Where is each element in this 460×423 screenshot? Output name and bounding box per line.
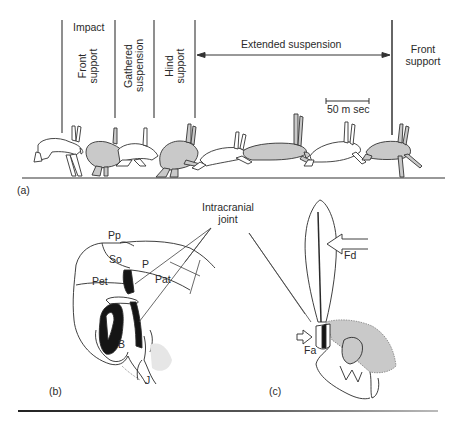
phase-label-line: support (400, 56, 446, 68)
bottom-rule (18, 410, 438, 412)
panel-label-c: (c) (269, 385, 281, 397)
hare-5 (192, 132, 252, 170)
phase-label-line: support (175, 40, 186, 92)
hare-7 (304, 122, 366, 166)
hare-3 (116, 128, 158, 166)
phase-label-front-support-end: Front support (400, 44, 446, 67)
phase-dividers (62, 20, 392, 135)
phase-label-line: suspension (134, 40, 145, 92)
phase-label-front-support: Front support (77, 40, 99, 92)
label-line: Intracranial (190, 202, 266, 214)
hare-4 (156, 124, 200, 177)
scale-bar-label: 50 m sec (327, 104, 370, 116)
label-line: joint (190, 214, 266, 226)
force-label-fd: Fd (344, 250, 356, 262)
structure-label-b: B (118, 339, 125, 351)
panel-label-b: (b) (49, 385, 62, 397)
panel-label-a: (a) (17, 184, 30, 196)
panel-c-drawing (297, 200, 396, 399)
phase-label-line: support (88, 40, 99, 92)
hare-sequence (34, 114, 422, 177)
structure-label-pat: Pat (155, 274, 171, 286)
hare-6 (243, 114, 310, 163)
double-arrow-icon (197, 53, 390, 58)
structure-label-pet: Pet (92, 276, 108, 288)
phase-label-hind-support: Hind support (164, 40, 186, 92)
force-label-fa: Fa (304, 345, 316, 357)
phase-label-extended-suspension: Extended suspension (241, 39, 341, 51)
phase-label-line: Front (400, 44, 446, 56)
fa-arrow-icon (297, 330, 312, 344)
structure-label-so: So (109, 254, 122, 266)
structure-label-p: P (142, 259, 149, 271)
structure-label-j: J (145, 375, 150, 387)
phase-label-impact: Impact (73, 22, 105, 34)
hare-1 (34, 126, 83, 176)
structure-label-pp: Pp (108, 230, 121, 242)
phase-label-gathered-suspension: Gathered suspension (123, 40, 145, 92)
intracranial-joint-label: Intracranial joint (190, 202, 266, 225)
figure: Impact Front support Gathered suspension… (0, 0, 460, 423)
